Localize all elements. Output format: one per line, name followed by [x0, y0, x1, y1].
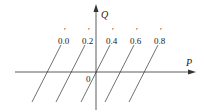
line-0.6 [105, 45, 134, 102]
origin-label: 0 [86, 74, 91, 84]
line-0.8 [129, 45, 158, 102]
line-label-0.4: ′ 0.4 [106, 27, 118, 46]
svg-text:0.8: 0.8 [154, 36, 166, 46]
svg-text:′: ′ [64, 27, 66, 36]
p-axis-label: P [185, 57, 192, 68]
svg-text:′: ′ [112, 27, 114, 36]
svg-text:0.2: 0.2 [82, 36, 93, 46]
pq-diagram: Q P 0 ′ 0.0 ′ 0.2 ′ 0.4 ′ 0.6 ′ 0.8 [0, 0, 204, 112]
svg-text:0.0: 0.0 [58, 36, 70, 46]
line-label-0.2: ′ 0.2 [82, 27, 93, 46]
p-axis-arrow-icon [188, 70, 196, 75]
q-axis-label: Q [101, 9, 109, 20]
svg-text:0.6: 0.6 [130, 36, 142, 46]
line-label-0.8: ′ 0.8 [154, 27, 166, 46]
q-axis-arrow-icon [94, 4, 99, 12]
line-0.0 [32, 45, 61, 102]
svg-text:′: ′ [88, 27, 90, 36]
svg-text:′: ′ [160, 27, 162, 36]
svg-text:0.4: 0.4 [106, 36, 118, 46]
svg-text:′: ′ [136, 27, 138, 36]
line-label-0.6: ′ 0.6 [130, 27, 142, 46]
line-0.2 [56, 45, 85, 102]
line-label-0.0: ′ 0.0 [58, 27, 70, 46]
